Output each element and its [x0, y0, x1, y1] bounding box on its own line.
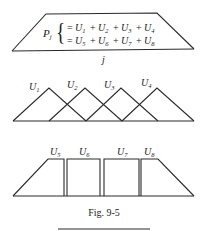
term-u5: U5	[75, 35, 86, 47]
plus-sign: +	[113, 22, 119, 33]
triangle-u3	[86, 88, 158, 121]
block-u5	[13, 159, 64, 196]
equals-sign: =	[67, 22, 73, 33]
top-baseline	[12, 49, 194, 51]
label-u6: U6	[79, 146, 90, 158]
bottom-panel: U5 U6 U7 U8	[13, 146, 194, 196]
term-u8: U8	[144, 35, 155, 47]
label-u2: U2	[67, 79, 78, 91]
label-u8: U8	[144, 146, 155, 158]
plus-sign: +	[113, 35, 119, 46]
label-u4: U4	[141, 77, 152, 89]
term-u7: U7	[121, 35, 132, 47]
triangle-u4	[122, 88, 194, 121]
figure-9-5: Pj { = U1 + U2 + U3 + U4 = U5 + U6 + U7 …	[0, 0, 208, 231]
term-u4: U4	[144, 22, 155, 34]
plus-sign: +	[136, 22, 142, 33]
label-u7: U7	[117, 146, 128, 158]
block-u7	[104, 159, 139, 196]
term-u6: U6	[98, 35, 109, 47]
p-symbol: Pj	[42, 27, 52, 41]
label-u5: U5	[50, 146, 61, 158]
triangle-u1	[13, 88, 86, 121]
middle-panel: U1 U2 U3 U4	[13, 77, 194, 121]
axis-label-j: j	[100, 54, 105, 65]
top-panel: Pj { = U1 + U2 + U3 + U4 = U5 + U6 + U7 …	[12, 13, 194, 65]
equals-sign: =	[67, 35, 73, 46]
equation-row-1: = U1 + U2 + U3 + U4	[67, 22, 155, 34]
label-u1: U1	[29, 81, 39, 93]
term-u3: U3	[121, 22, 132, 34]
block-u6	[67, 159, 100, 196]
left-brace: {	[56, 17, 65, 45]
triangle-u2	[49, 88, 122, 121]
plus-sign: +	[90, 22, 96, 33]
plus-sign: +	[136, 35, 142, 46]
plus-sign: +	[90, 35, 96, 46]
block-u8	[141, 159, 194, 196]
term-u2: U2	[98, 22, 109, 34]
label-u3: U3	[104, 79, 115, 91]
term-u1: U1	[75, 22, 85, 34]
equation-row-2: = U5 + U6 + U7 + U8	[67, 35, 155, 47]
figure-caption: Fig. 9-5	[88, 207, 120, 218]
